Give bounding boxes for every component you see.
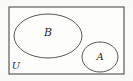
- venn-diagram-canvas: B A U: [0, 0, 133, 81]
- set-b-label: B: [43, 26, 52, 39]
- universe-label: U: [12, 60, 21, 71]
- venn-diagram-figure: B A U: [0, 0, 133, 81]
- set-a-label: A: [95, 51, 103, 62]
